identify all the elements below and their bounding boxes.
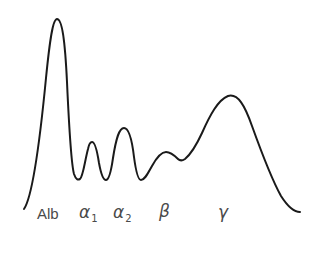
band-label-gamma: γ bbox=[218, 204, 228, 221]
band-label-albumin: Alb bbox=[37, 206, 59, 221]
band-label-beta: β bbox=[159, 203, 170, 220]
band-label-alpha1-base: α bbox=[79, 202, 90, 222]
densitometry-curve-path bbox=[24, 19, 300, 212]
band-label-alpha1-subscript: 1 bbox=[90, 213, 97, 224]
band-label-alpha1: α1 bbox=[79, 204, 98, 224]
electrophoresis-figure: Alb α1 α2 β γ bbox=[0, 0, 326, 259]
band-label-alpha2: α2 bbox=[113, 204, 132, 224]
band-label-alpha2-subscript: 2 bbox=[124, 213, 131, 224]
band-label-alpha2-base: α bbox=[113, 202, 124, 222]
